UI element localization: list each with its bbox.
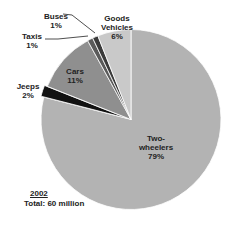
label-jeeps-name: Jeeps xyxy=(17,82,40,91)
caption-year: 2002 xyxy=(24,189,84,199)
label-buses-name: Buses xyxy=(44,12,68,21)
label-jeeps: Jeeps 2% xyxy=(17,82,40,100)
caption-total: Total: 60 million xyxy=(24,199,84,208)
label-cars-pct: 11% xyxy=(66,76,84,85)
label-buses-pct: 1% xyxy=(44,21,68,30)
label-two-wheelers-line2: wheelers xyxy=(139,143,173,152)
label-two-wheelers-pct: 79% xyxy=(139,152,173,161)
label-two-wheelers-line1: Two- xyxy=(139,134,173,143)
label-goods-vehicles-line1: Goods xyxy=(101,14,133,23)
label-goods-vehicles-pct: 6% xyxy=(101,32,133,41)
label-taxis-name: Taxis xyxy=(22,32,42,41)
label-two-wheelers: Two- wheelers 79% xyxy=(139,134,173,161)
label-goods-vehicles: Goods Vehicles 6% xyxy=(101,14,133,41)
label-cars: Cars 11% xyxy=(66,67,84,85)
pie-slices xyxy=(41,30,221,210)
label-jeeps-pct: 2% xyxy=(17,91,40,100)
leader-line-taxis xyxy=(45,36,88,39)
label-taxis-pct: 1% xyxy=(22,41,42,50)
chart-caption: 2002 Total: 60 million xyxy=(24,189,84,209)
label-taxis: Taxis 1% xyxy=(22,32,42,50)
label-goods-vehicles-line2: Vehicles xyxy=(101,23,133,32)
label-buses: Buses 1% xyxy=(44,12,68,30)
label-cars-name: Cars xyxy=(66,67,84,76)
